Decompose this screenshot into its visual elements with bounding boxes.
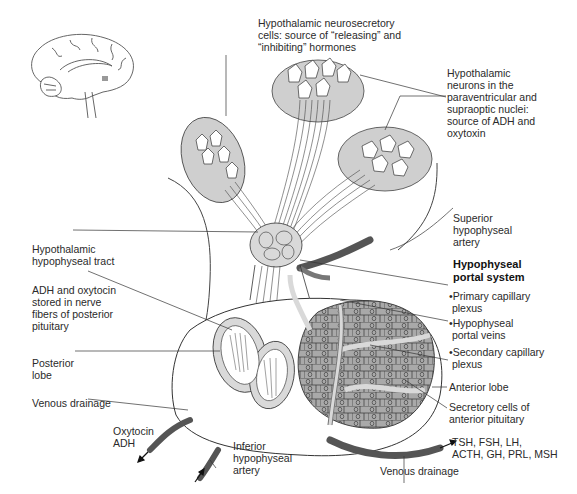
anterior-lobe-tissue <box>298 301 434 429</box>
label-oxytocin-adh: Oxytocin ADH <box>113 425 154 449</box>
label-hypothalamic-hypophyseal-tract: Hypothalamic hypophyseal tract <box>32 243 114 267</box>
label-secretory-cells: Secretory cells of anterior pituitary <box>449 401 530 425</box>
label-superior-hypophyseal-artery: Superior hypophyseal artery <box>453 212 512 248</box>
venous-drainage-left <box>150 420 190 450</box>
label-anterior-hormones: TSH, FSH, LH, ACTH, GH, PRL, MSH <box>452 436 558 460</box>
label-venous-drainage-left: Venous drainage <box>32 397 111 409</box>
pituitary-diagram: Hypothalamic neurosecretory cells: sourc… <box>0 0 577 494</box>
label-adh-oxytocin-stored: ADH and oxytocin stored in nerve fibers … <box>32 284 116 332</box>
label-secondary-capillary-plexus: •Secondary capillary plexus <box>449 346 544 370</box>
label-neurosecretory-cells: Hypothalamic neurosecretory cells: sourc… <box>258 17 401 53</box>
label-venous-drainage-bottom: Venous drainage <box>380 465 459 477</box>
label-inferior-hypophyseal-artery: Inferior hypophyseal artery <box>233 440 292 476</box>
label-posterior-lobe: Posterior lobe <box>32 357 74 381</box>
label-hypophyseal-portal-veins: •Hypophyseal portal veins <box>449 317 513 341</box>
label-paraventricular-neurons: Hypothalamic neurons in the paraventricu… <box>447 67 537 139</box>
primary-capillary-plexus <box>250 223 302 267</box>
brain-sagittal-icon <box>32 34 134 118</box>
label-primary-capillary-plexus: •Primary capillary plexus <box>449 290 530 314</box>
label-hypophyseal-portal-system: Hypophyseal portal system <box>453 258 525 283</box>
label-anterior-lobe: Anterior lobe <box>449 381 509 393</box>
superior-hypophyseal-artery <box>300 240 370 268</box>
